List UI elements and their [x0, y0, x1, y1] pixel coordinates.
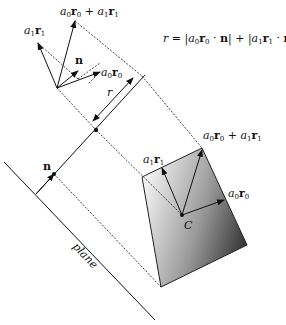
label-sum-box: a0r0 + a1r1 — [203, 129, 262, 143]
label-n-top: n — [75, 54, 83, 67]
oriented-box — [142, 148, 247, 287]
diagram-canvas: r = |a0r0 · n| + |a1r1 · n| a0r0 + a1r1 … — [0, 0, 286, 325]
obb-plane-diagram: r = |a0r0 · n| + |a1r1 · n| a0r0 + a1r1 … — [0, 0, 286, 325]
label-plane: plane — [70, 240, 101, 271]
formula-text: r = |a0r0 · n| + |a1r1 · n| — [163, 32, 286, 46]
r-dimension-arrow — [93, 78, 133, 121]
label-r-dimension: r — [107, 86, 113, 99]
origin-vectors — [38, 21, 100, 88]
center-point — [180, 213, 184, 217]
label-sum-top: a0r0 + a1r1 — [60, 5, 119, 19]
label-center-c: C — [184, 219, 193, 232]
normal-arrow — [36, 174, 54, 194]
label-n-axis: n — [43, 160, 51, 173]
label-a0r0-top: a0r0 — [101, 66, 122, 80]
label-a0r0-box: a0r0 — [228, 187, 249, 201]
label-a1r1-top: a1r1 — [24, 24, 45, 38]
label-a1r1-box: a1r1 — [143, 153, 164, 167]
